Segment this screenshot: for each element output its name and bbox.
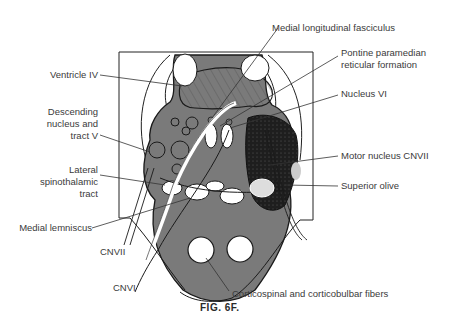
medial-lemniscus-right (220, 188, 244, 204)
label-descending-nucleus-1: Descending (10, 106, 98, 118)
label-nucleus-vi: Nucleus VI (341, 88, 387, 100)
label-pontine-paramedian-1: Pontine paramedian (341, 47, 426, 59)
label-descending-nucleus-3: tract V (10, 130, 98, 142)
label-cnvi: CNVI (113, 282, 136, 294)
label-mlf: Medial longitudinal fasciculus (272, 22, 395, 34)
white-lobe-left (173, 54, 197, 86)
leader-superior-olive (285, 185, 338, 186)
descending-tract-v-circle (149, 142, 165, 158)
label-lateral-spinothalamic-1: Lateral (10, 164, 98, 176)
label-ventricle-iv: Ventricle IV (10, 69, 98, 81)
label-lateral-spinothalamic-3: tract (10, 188, 98, 200)
label-motor-nucleus-cnvii: Motor nucleus CNVII (341, 150, 429, 162)
label-corticospinal: Corticospinal and corticobulbar fibers (232, 288, 388, 300)
label-cnvii: CNVII (100, 246, 125, 258)
label-descending-nucleus-2: nucleus and (10, 118, 98, 130)
label-superior-olive: Superior olive (341, 180, 399, 192)
corticospinal-left (188, 237, 214, 263)
label-medial-lemniscus: Medial lemniscus (4, 222, 92, 234)
figure-caption: FIG. 6F. (200, 302, 240, 313)
superior-olive (250, 179, 274, 197)
corticospinal-right (227, 236, 253, 262)
label-pontine-paramedian-2: reticular formation (341, 59, 417, 71)
label-lateral-spinothalamic-2: spinothalamic (10, 176, 98, 188)
